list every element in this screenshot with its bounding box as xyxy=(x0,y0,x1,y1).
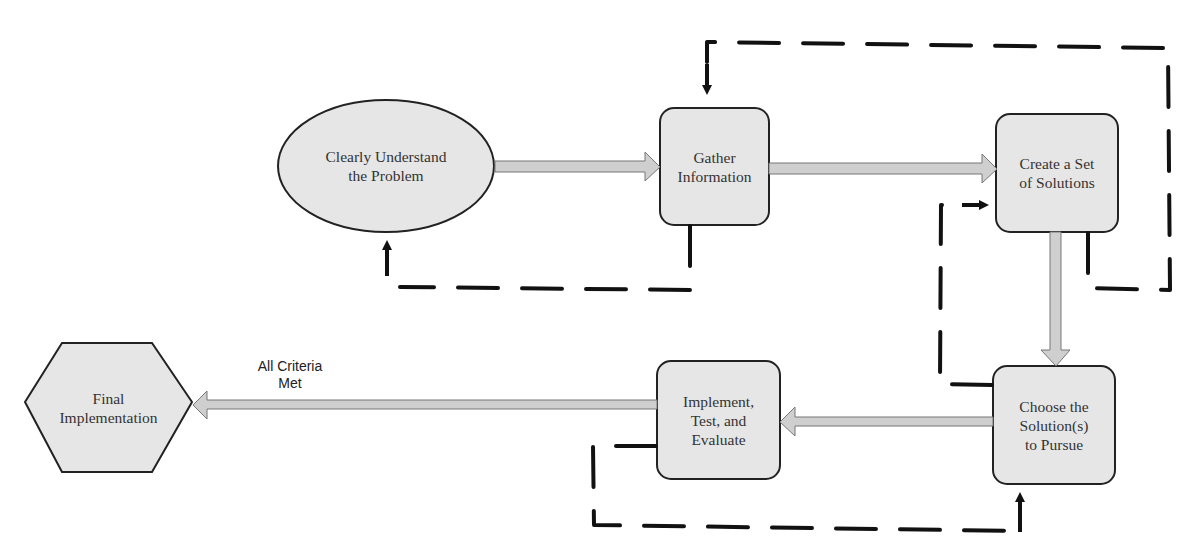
node-create-label: Create a Set of Solutions xyxy=(996,114,1118,232)
arrow-choose-to-implement xyxy=(780,407,993,436)
node-understand-label: Clearly Understand the Problem xyxy=(278,130,494,202)
node-choose-label: Choose the Solution(s) to Pursue xyxy=(993,366,1115,484)
edge-label-all-criteria-met: All Criteria Met xyxy=(225,358,355,392)
arrow-implement-to-final xyxy=(193,391,657,419)
node-implement-label: Implement, Test, and Evaluate xyxy=(657,361,780,479)
flowchart-canvas: Clearly Understand the Problem Gather In… xyxy=(0,0,1199,555)
node-final-label: Final Implementation xyxy=(25,343,192,472)
arrow-understand-to-gather xyxy=(495,152,660,181)
arrow-create-to-choose xyxy=(1041,232,1070,366)
feedback-gather-to-understand xyxy=(400,226,690,290)
arrow-gather-to-create xyxy=(769,154,997,183)
node-gather-label: Gather Information xyxy=(660,108,769,225)
feedback-choose-to-create xyxy=(940,205,992,385)
